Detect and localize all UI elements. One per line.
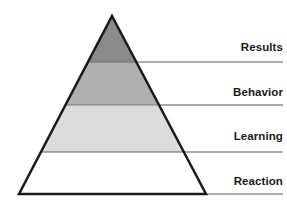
pyramid-band-results (88, 16, 136, 62)
pyramid-label-results: Results (241, 42, 283, 54)
pyramid-label-learning: Learning (234, 131, 283, 143)
pyramid-label-behavior: Behavior (233, 87, 283, 99)
pyramid-diagram: Results Behavior Learning Reaction (0, 0, 287, 204)
pyramid-band-reaction (19, 152, 206, 194)
pyramid-label-reaction: Reaction (234, 176, 283, 188)
pyramid-graphic (0, 0, 287, 204)
pyramid-band-behavior (65, 62, 159, 105)
